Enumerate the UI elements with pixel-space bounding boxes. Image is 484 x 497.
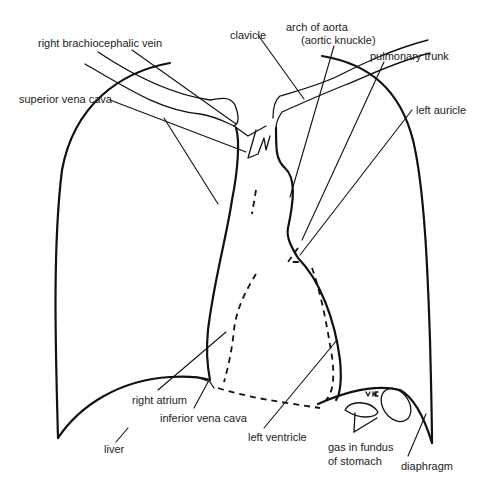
label-clavicle: clavicle	[230, 29, 266, 42]
leader-diaphragm	[408, 414, 426, 456]
vessel-confluence	[234, 126, 266, 136]
label-aortic-knuckle: (aortic knuckle)	[301, 34, 376, 47]
label-of-stomach: of stomach	[328, 455, 382, 468]
left-ventricle-inner-dashed	[312, 268, 333, 400]
right-lung-outline	[56, 63, 171, 438]
label-gas-in-fundus: gas in fundus	[328, 441, 393, 454]
leader-pulmonary-trunk	[302, 62, 384, 240]
label-pulmonary-trunk: pulmonary trunk	[370, 50, 449, 63]
right-heart-border	[207, 128, 238, 380]
label-inferior-vena-cava: inferior vena cava	[160, 412, 247, 425]
signature-mark	[366, 392, 378, 396]
label-left-auricle: left auricle	[416, 104, 466, 117]
leader-left-auricle	[300, 110, 412, 255]
label-right-atrium: right atrium	[132, 394, 187, 407]
right-hemidiaphragm	[58, 377, 210, 438]
label-arch-of-aorta: arch of aorta	[286, 21, 348, 34]
label-left-ventricle: left ventricle	[248, 431, 307, 444]
leader-inferior-vena-cava	[194, 382, 208, 408]
leader-left-ventricle	[264, 340, 337, 428]
leader-clavicle	[258, 35, 304, 99]
leader-liver	[116, 428, 128, 442]
leader-superior-vena-cava	[110, 100, 246, 152]
leader-right-atrium	[158, 332, 226, 390]
heart-base-dashed	[218, 388, 320, 408]
leader-right-brachiocephalic-vein	[132, 50, 236, 124]
label-diaphragm: diaphragm	[401, 460, 453, 473]
left-heart-border	[276, 128, 341, 400]
label-liver: liver	[104, 443, 124, 456]
leader-arch-of-aorta	[290, 46, 334, 197]
label-right-brachiocephalic-vein: right brachiocephalic vein	[38, 37, 162, 50]
label-superior-vena-cava: superior vena cava	[19, 93, 112, 106]
stomach-fundus-ellipse	[375, 383, 417, 427]
right-atrium-inner-dashed	[224, 274, 256, 382]
stomach-gas-bubble	[345, 403, 378, 417]
heart-inner-border-dashed	[252, 190, 256, 214]
